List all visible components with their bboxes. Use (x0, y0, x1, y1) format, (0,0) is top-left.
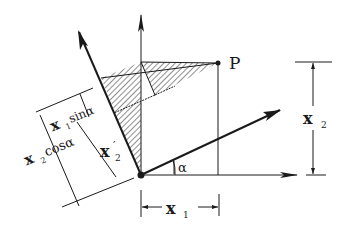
svg-text:x: x (47, 115, 63, 135)
origin-marker (138, 172, 145, 179)
x2-dimension: x 2 (295, 62, 332, 175)
x2-dimension-label: x (303, 109, 313, 128)
x2-dimension-sub: 2 (321, 120, 327, 130)
x1-dimension-label: x (166, 199, 176, 218)
svg-text:′: ′ (113, 139, 116, 152)
svg-text:x: x (21, 149, 37, 169)
x1-dimension: x 1 (141, 190, 219, 220)
point-p-marker (216, 61, 221, 66)
rotation-diagram: P α x 2 x 1 x 1 sin (0, 0, 358, 242)
x2-prime-label: x ′ 2 (100, 139, 121, 163)
svg-text:cosα: cosα (42, 134, 76, 159)
point-p-label: P (229, 53, 240, 73)
angle-alpha: α (173, 160, 187, 175)
svg-text:sinα: sinα (67, 103, 96, 126)
x1-sin-alpha-label: x 1 sinα (47, 101, 97, 137)
svg-text:x: x (100, 142, 110, 161)
x2-cos-alpha-label: x 2 cosα (21, 133, 77, 171)
x1-dimension-sub: 1 (183, 210, 189, 220)
svg-text:2: 2 (115, 153, 121, 163)
x1-prime-axis (141, 110, 281, 175)
x1-axis (141, 172, 298, 178)
angle-alpha-label: α (178, 160, 187, 175)
